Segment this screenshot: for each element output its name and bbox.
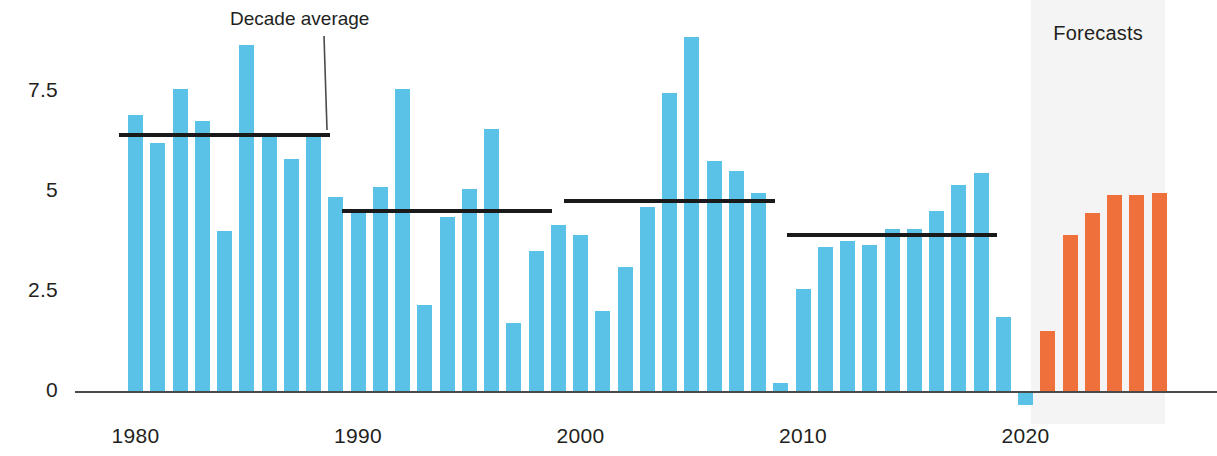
bar-1993 bbox=[417, 305, 432, 391]
x-axis-tick-1990: 1990 bbox=[308, 424, 408, 448]
bar-1994 bbox=[440, 217, 455, 391]
bar-2020 bbox=[1018, 391, 1033, 405]
bar-1981 bbox=[150, 143, 165, 391]
bar-2021 bbox=[1040, 331, 1055, 391]
bar-1997 bbox=[506, 323, 521, 391]
decade-average-line-1990s bbox=[342, 209, 553, 213]
decade-average-line-2010s bbox=[787, 233, 998, 237]
bar-2002 bbox=[618, 267, 633, 391]
bar-2014 bbox=[885, 229, 900, 391]
bar-1990 bbox=[351, 211, 366, 391]
bar-2009 bbox=[773, 383, 788, 391]
bar-1992 bbox=[395, 89, 410, 391]
bar-1987 bbox=[284, 159, 299, 391]
bar-2006 bbox=[707, 161, 722, 391]
bar-1986 bbox=[262, 137, 277, 391]
bar-1995 bbox=[462, 189, 477, 391]
bar-1998 bbox=[529, 251, 544, 391]
bar-2001 bbox=[595, 311, 610, 391]
bar-2005 bbox=[684, 37, 699, 391]
forecast-region-label: Forecasts bbox=[1031, 22, 1165, 45]
bar-2026 bbox=[1152, 193, 1167, 391]
bar-2015 bbox=[907, 229, 922, 391]
bar-1983 bbox=[195, 121, 210, 391]
bar-1984 bbox=[217, 231, 232, 391]
bar-2000 bbox=[573, 235, 588, 391]
bar-1980 bbox=[128, 115, 143, 391]
bar-2016 bbox=[929, 211, 944, 391]
bar-1985 bbox=[239, 45, 254, 391]
decade-average-line-2000s bbox=[564, 199, 775, 203]
bar-2008 bbox=[751, 193, 766, 391]
bar-1999 bbox=[551, 225, 566, 391]
bar-2004 bbox=[662, 93, 677, 391]
bar-2019 bbox=[996, 317, 1011, 391]
decade-average-annotation-label: Decade average bbox=[230, 8, 369, 30]
bar-2010 bbox=[796, 289, 811, 391]
bar-2018 bbox=[974, 173, 989, 391]
y-axis-tick-2-5: 2.5 bbox=[0, 278, 58, 302]
bar-1989 bbox=[328, 197, 343, 391]
bar-1996 bbox=[484, 129, 499, 391]
bar-2013 bbox=[862, 245, 877, 391]
bar-2003 bbox=[640, 207, 655, 391]
bar-2022 bbox=[1063, 235, 1078, 391]
bar-1991 bbox=[373, 187, 388, 391]
y-axis-tick-0: 0 bbox=[0, 378, 58, 402]
y-axis-tick-5: 5 bbox=[0, 178, 58, 202]
x-axis-tick-2000: 2000 bbox=[531, 424, 631, 448]
x-axis-tick-2020: 2020 bbox=[976, 424, 1076, 448]
bar-2025 bbox=[1129, 195, 1144, 391]
bar-2024 bbox=[1107, 195, 1122, 391]
bar-2007 bbox=[729, 171, 744, 391]
bar-1988 bbox=[306, 137, 321, 391]
y-axis-tick-7-5: 7.5 bbox=[0, 78, 58, 102]
x-axis-tick-1980: 1980 bbox=[86, 424, 186, 448]
chart-container: Forecasts 02.557.5 Decade average 198019… bbox=[0, 0, 1217, 456]
bar-2023 bbox=[1085, 213, 1100, 391]
bar-2011 bbox=[818, 247, 833, 391]
decade-average-line-1980s bbox=[119, 133, 330, 137]
bar-2017 bbox=[951, 185, 966, 391]
x-axis-tick-2010: 2010 bbox=[753, 424, 853, 448]
zero-axis-line bbox=[75, 391, 1217, 393]
bar-2012 bbox=[840, 241, 855, 391]
